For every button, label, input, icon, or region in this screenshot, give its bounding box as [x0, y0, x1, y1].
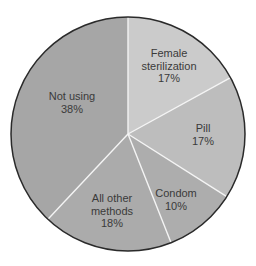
pie-chart: Femalesterilization17%Pill17%Condom10%Al…: [0, 0, 256, 266]
